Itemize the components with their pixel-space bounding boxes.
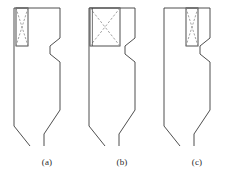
figure-panel-b: [89, 8, 135, 146]
panel-c-outline-left: [164, 8, 180, 146]
figure-caption-c: (c): [177, 157, 217, 167]
figure-caption-b: (b): [102, 157, 142, 167]
figure-board: (a) (b) (c): [0, 0, 229, 177]
figure-panel-c: [164, 8, 210, 146]
panel-c-outline-right: [164, 8, 210, 146]
technical-drawing-canvas: [0, 0, 229, 177]
figure-panel-a: [14, 8, 60, 146]
figure-caption-a: (a): [27, 157, 67, 167]
panel-b-outline-right: [89, 8, 135, 146]
panel-a-outline-right: [14, 8, 60, 146]
panel-b-outline-left: [89, 8, 105, 146]
